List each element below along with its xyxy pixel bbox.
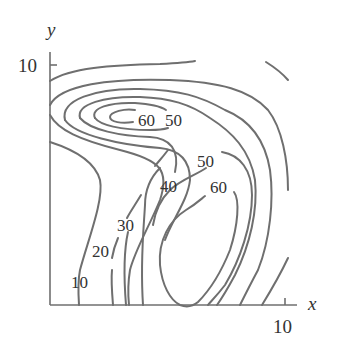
contour-line	[155, 150, 168, 166]
contour-line	[94, 103, 166, 118]
contour-label-60-lower: 60	[210, 178, 227, 197]
contour-labels: 10 20 30 40 50 60 60 50	[71, 111, 227, 292]
contour-label-50-upper: 50	[165, 111, 182, 130]
contour-line	[112, 238, 118, 258]
contour-line-60	[160, 192, 238, 306]
y-axis-label: y	[45, 19, 56, 40]
contour-line	[127, 195, 141, 218]
contour-label-60-upper: 60	[138, 111, 155, 130]
x-axis-label: x	[307, 293, 317, 314]
contour-label-10: 10	[71, 273, 88, 292]
contour-line	[266, 62, 288, 80]
y-tick-label: 10	[18, 55, 37, 76]
contour-line-60	[110, 109, 135, 122]
contour-label-50-lower: 50	[197, 152, 214, 171]
contour-line-50	[95, 118, 168, 130]
x-tick-label: 10	[273, 316, 292, 337]
contour-line	[50, 61, 195, 81]
contour-line	[112, 270, 113, 305]
contour-line	[262, 258, 288, 305]
contour-label-40: 40	[160, 177, 177, 196]
contour-line	[142, 168, 160, 305]
contour-label-20: 20	[92, 242, 109, 261]
contour-plot: y x 10 10	[0, 0, 338, 355]
contour-label-30: 30	[117, 216, 134, 235]
contour-line-20	[50, 115, 164, 305]
